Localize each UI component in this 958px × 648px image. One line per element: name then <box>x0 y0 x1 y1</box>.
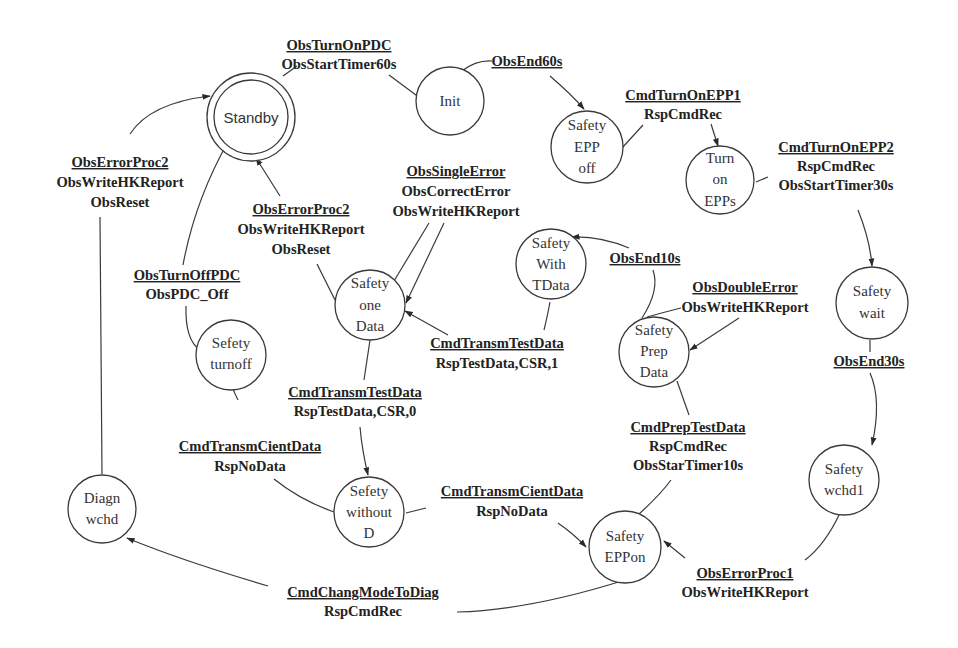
state-standby[interactable]: Standby <box>207 73 295 161</box>
state-label: Init <box>440 93 462 109</box>
label-t15: CmdTransmCientData RspNoData <box>179 438 322 474</box>
label-t2: ObsEnd60s <box>492 53 563 69</box>
state-label: Data <box>640 364 669 380</box>
action-label: ObsWriteHKReport <box>682 584 809 600</box>
event-label: ObsEnd30s <box>834 353 905 369</box>
action-label: ObsStartTimer30s <box>779 177 894 193</box>
label-t13: CmdTransmTestData RspTestData,CSR,0 <box>288 384 422 419</box>
state-label: Safety <box>606 528 645 544</box>
state-label: EPPon <box>605 549 646 565</box>
label-t11: ObsSingleError ObsCorrectError ObsWriteH… <box>393 163 520 219</box>
label-t8: ObsEnd10s <box>610 250 681 266</box>
label-t18: ObsErrorProc2 ObsWriteHKReport ObsReset <box>57 154 184 210</box>
action-label: RspTestData,CSR,1 <box>436 355 559 371</box>
state-safety-epp-on[interactable]: Safety EPPon <box>589 511 661 583</box>
edge-without-d-to-epp-on-arrow <box>558 523 586 547</box>
event-label: ObsTurnOffPDC <box>134 267 241 283</box>
label-t1: ObsTurnOnPDC ObsStartTimer60s <box>282 37 397 72</box>
label-t9: ObsDoubleError ObsWriteHKReport <box>682 279 809 315</box>
event-label: CmdChangModeToDiag <box>287 584 439 600</box>
action-label: ObsCorrectError <box>402 183 512 199</box>
edge-init-to-safety-epp-off <box>462 61 492 71</box>
action-label: ObsWriteHKReport <box>238 221 365 237</box>
state-label: Prep <box>640 343 668 359</box>
edge-without-d-to-epp-on <box>406 508 426 513</box>
state-diagn-wchd[interactable]: Diagn wchd <box>68 475 136 543</box>
state-label: D <box>364 525 375 541</box>
edge-turn-on-epps-to-wait <box>756 177 768 182</box>
state-label: wchd <box>86 511 119 527</box>
label-t6: ObsErrorProc1 ObsWriteHKReport <box>682 565 809 600</box>
event-label: ObsErrorProc1 <box>697 565 794 581</box>
edge-double-error-in <box>690 318 739 350</box>
label-t10: CmdTransmTestData RspTestData,CSR,1 <box>430 335 564 371</box>
edge-turn-on-epps-to-wait-arrow <box>858 210 872 266</box>
event-label: ObsErrorProc2 <box>253 201 350 217</box>
action-label: RspCmdRec <box>797 158 876 174</box>
label-t17: CmdChangModeToDiag RspCmdRec <box>287 584 439 619</box>
state-init[interactable]: Init <box>416 67 484 135</box>
event-label: CmdTurnOnEPP2 <box>778 139 894 155</box>
state-label: wchd1 <box>824 482 864 498</box>
edge-one-data-to-without-d-arrow <box>360 427 368 475</box>
edge-epp-on-to-diagn <box>457 580 625 612</box>
edge-epp-off-to-turn-on-epps-arrow <box>711 124 718 146</box>
action-label: RspCmdRec <box>324 603 403 619</box>
label-t4: CmdTurnOnEPP2 RspCmdRec ObsStartTimer30s <box>778 139 894 193</box>
state-safety-epp-off[interactable]: Safety EPP off <box>551 111 623 183</box>
action-label: RspNoData <box>214 458 286 474</box>
state-label: Safety <box>532 235 571 251</box>
label-t12: ObsErrorProc2 ObsWriteHKReport ObsReset <box>238 201 365 257</box>
action-label: ObsReset <box>272 241 331 257</box>
state-label: TData <box>532 277 570 293</box>
action-label: ObsPDC_Off <box>146 286 229 302</box>
event-label: CmdPrepTestData <box>630 419 746 435</box>
edge-wchd1-to-epp-on <box>805 513 840 560</box>
label-t3: CmdTurnOnEPP1 RspCmdRec <box>625 87 741 122</box>
state-safety-one-data[interactable]: Safety one Data <box>335 270 405 340</box>
event-label: CmdTransmCientData <box>179 438 322 454</box>
edge-epp-on-to-prep-data <box>639 480 671 514</box>
action-label: RspNoData <box>476 503 548 519</box>
action-label: RspTestData,CSR,0 <box>294 403 417 419</box>
edge-prep-data-to-with-tdata <box>642 270 655 318</box>
state-label: one <box>359 297 381 313</box>
edge-epp-off-to-turn-on-epps <box>622 125 643 148</box>
state-safety-wait[interactable]: Safety wait <box>836 267 908 339</box>
state-label: Safety <box>825 461 864 477</box>
event-label: ObsEnd60s <box>492 53 563 69</box>
state-label: With <box>536 256 566 272</box>
state-label: without <box>346 504 393 520</box>
state-label: Safety <box>351 275 390 291</box>
state-label: Turn <box>706 150 735 166</box>
label-t7: CmdPrepTestData RspCmdRec ObsStarTimer10… <box>630 419 746 473</box>
state-turn-on-epps[interactable]: Turn on EPPs <box>686 146 754 214</box>
state-safety-prep-data[interactable]: Safety Prep Data <box>619 317 689 387</box>
state-safety-wchd1[interactable]: Safety wchd1 <box>809 445 879 515</box>
action-label: RspCmdRec <box>649 438 728 454</box>
state-sefety-without-d[interactable]: Sefety without D <box>334 477 404 547</box>
state-safety-with-tdata[interactable]: Safety With TData <box>516 229 586 299</box>
label-t14: CmdTransmCientData RspNoData <box>441 483 584 519</box>
state-label: Safety <box>568 117 607 133</box>
state-label: on <box>713 171 729 187</box>
label-t5: ObsEnd30s <box>834 353 905 369</box>
edge-one-data-to-standby-arrow <box>256 158 280 196</box>
label-t16: ObsTurnOffPDC ObsPDC_Off <box>134 267 241 302</box>
edge-one-data-to-standby <box>317 264 335 300</box>
edge-init-to-safety-epp-off-arrow <box>550 76 584 109</box>
event-label: CmdTransmCientData <box>441 483 584 499</box>
state-sefety-turnoff[interactable]: Sefety turnoff <box>196 320 266 390</box>
event-label: ObsErrorProc2 <box>72 154 169 170</box>
event-label: ObsDoubleError <box>692 279 798 295</box>
edge-diagn-to-standby-arrow <box>130 96 210 134</box>
state-label: wait <box>859 305 886 321</box>
state-label: Diagn <box>84 490 121 506</box>
edge-double-error-out <box>647 308 681 317</box>
edge-single-error-in <box>406 223 444 303</box>
edge-epp-on-to-diagn-arrow <box>127 538 268 586</box>
action-label: ObsStartTimer60s <box>282 56 397 72</box>
state-label: EPP <box>574 139 600 155</box>
edge-single-error-out <box>394 223 429 281</box>
edge-diagn-to-standby <box>100 217 102 474</box>
